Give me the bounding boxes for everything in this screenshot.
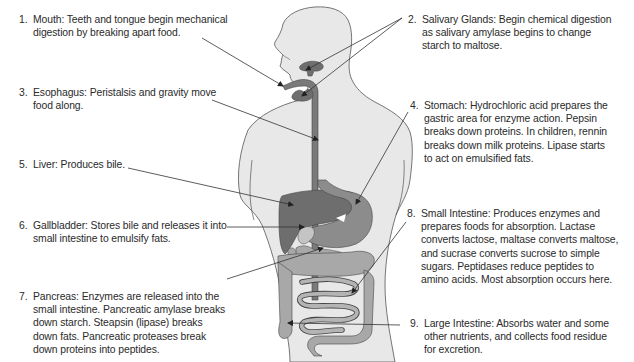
- leader-line-mouth: [202, 38, 283, 86]
- label-text: Gallbladder: Stores bile and releases it…: [19, 219, 234, 245]
- label-number: 5.: [19, 158, 27, 171]
- label-stomach: 4. Stomach: Hydrochloric acid prepares t…: [410, 99, 610, 165]
- label-number: 7.: [19, 290, 27, 303]
- label-number: 6.: [19, 219, 27, 232]
- label-number: 2.: [408, 13, 416, 26]
- label-text: Stomach: Hydrochloric acid prepares the …: [410, 99, 610, 165]
- label-salivary-glands: 2. Salivary Glands: Begin chemical diges…: [408, 13, 618, 53]
- label-text: Liver: Produces bile.: [19, 158, 139, 171]
- label-text: Large Intestine: Absorbs water and some …: [410, 317, 610, 357]
- label-number: 8.: [407, 207, 415, 220]
- label-text: Esophagus: Peristalsis and gravity move …: [19, 86, 219, 112]
- label-number: 1.: [19, 13, 27, 26]
- label-pancreas: 7. Pancreas: Enzymes are released into t…: [19, 290, 229, 356]
- label-number: 4.: [410, 99, 418, 112]
- label-large-intestine: 9. Large Intestine: Absorbs water and so…: [410, 317, 610, 357]
- label-gallbladder: 6. Gallbladder: Stores bile and releases…: [19, 219, 234, 245]
- label-text: Mouth: Teeth and tongue begin mechanical…: [19, 13, 234, 39]
- label-text: Small Intestine: Produces enzymes and pr…: [407, 207, 622, 286]
- label-text: Salivary Glands: Begin chemical digestio…: [408, 13, 618, 53]
- label-number: 9.: [410, 317, 418, 330]
- label-mouth: 1. Mouth: Teeth and tongue begin mechani…: [19, 13, 234, 39]
- label-liver: 5. Liver: Produces bile.: [19, 158, 139, 171]
- label-small-intestine: 8. Small Intestine: Produces enzymes and…: [407, 207, 622, 286]
- label-number: 3.: [19, 86, 27, 99]
- label-esophagus: 3. Esophagus: Peristalsis and gravity mo…: [19, 86, 219, 112]
- label-text: Pancreas: Enzymes are released into the …: [19, 290, 229, 356]
